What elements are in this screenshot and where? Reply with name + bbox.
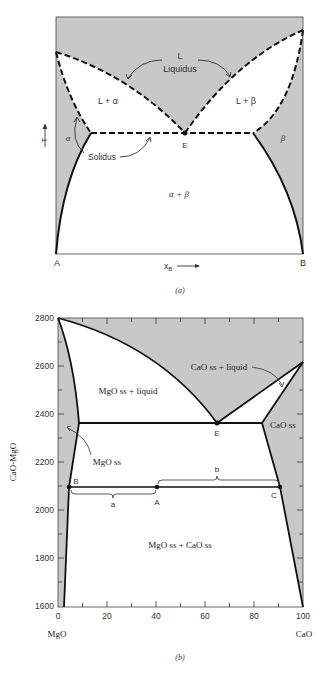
- svg-text:2400: 2400: [35, 409, 54, 419]
- x-tick-labels: 0 20 40 60 80 100: [56, 611, 311, 621]
- label-solidus: Solidus: [88, 152, 116, 162]
- label-lever-a: a: [111, 500, 116, 509]
- caption-b: (b): [175, 653, 185, 662]
- svg-text:2800: 2800: [35, 313, 54, 323]
- label-l-alpha: L + α: [98, 96, 118, 106]
- diagram-b: MgO ss + liquid CaO ss + liquid CaO ss M…: [8, 313, 313, 662]
- svg-text:20: 20: [102, 611, 112, 621]
- label-mgo-ss: MgO ss: [93, 457, 122, 467]
- label-b-end: B: [300, 258, 306, 268]
- label-a-end: A: [54, 258, 60, 268]
- x-right-label: CaO: [296, 629, 313, 639]
- label-beta: β: [280, 133, 286, 143]
- svg-text:2600: 2600: [35, 361, 54, 371]
- label-liquidus: Liquidus: [163, 64, 197, 74]
- svg-text:2200: 2200: [35, 457, 54, 467]
- label-point-c: C: [271, 491, 277, 500]
- region-two-solid: [64, 423, 303, 607]
- svg-text:1800: 1800: [35, 553, 54, 563]
- point-a: [155, 485, 160, 490]
- point-b: [67, 485, 72, 490]
- label-point-a: A: [154, 498, 160, 507]
- label-t: T: [40, 137, 49, 142]
- y-tick-labels: 2800 2600 2400 2200 2000 1800 1600: [35, 313, 54, 611]
- y-axis-label: CaO-MgO: [8, 442, 18, 481]
- svg-text:80: 80: [249, 611, 259, 621]
- label-two-solid: MgO ss + CaO ss: [148, 540, 212, 550]
- label-cao-liquid: CaO ss + liquid: [191, 362, 248, 372]
- label-alpha-beta: α + β: [169, 189, 189, 199]
- svg-text:0: 0: [56, 611, 61, 621]
- label-eutectic-b: E: [214, 429, 219, 438]
- label-liquid: L: [177, 51, 182, 61]
- diagram-a: L Liquidus L + α L + β α β E Solidus α +…: [40, 17, 306, 295]
- eutectic-point-a: [183, 131, 188, 136]
- label-cao-ss: CaO ss: [270, 420, 296, 430]
- label-point-b: B: [73, 477, 78, 486]
- svg-text:2000: 2000: [35, 505, 54, 515]
- label-alpha: α: [66, 133, 71, 143]
- svg-text:40: 40: [151, 611, 161, 621]
- caption-a: (a): [175, 286, 185, 295]
- point-c: [278, 485, 283, 490]
- label-mgo-liquid: MgO ss + liquid: [99, 386, 158, 396]
- svg-text:100: 100: [296, 611, 310, 621]
- label-l-beta: L + β: [236, 96, 256, 106]
- phase-diagrams: L Liquidus L + α L + β α β E Solidus α +…: [0, 0, 322, 674]
- label-lever-b: b: [215, 465, 220, 474]
- label-eutectic-a: E: [182, 141, 187, 150]
- x-left-label: MgO: [47, 629, 67, 639]
- label-xb: xB: [164, 261, 172, 272]
- eutectic-point-b: [215, 421, 220, 426]
- svg-text:60: 60: [200, 611, 210, 621]
- svg-text:1600: 1600: [35, 601, 54, 611]
